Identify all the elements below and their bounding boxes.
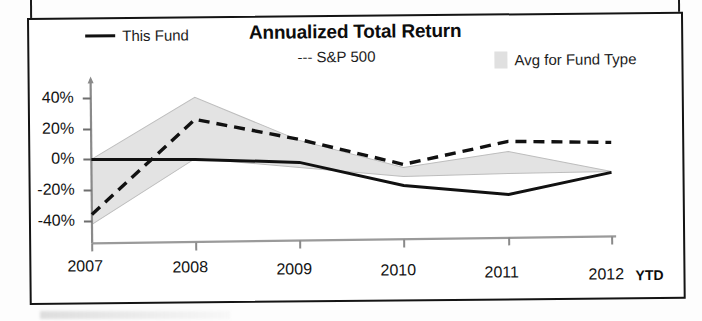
y-tick-label-0: 0% [16,150,74,169]
plot-area [29,14,684,303]
scanned-page: Annualized Total Return This Fund --- S&… [0,0,702,321]
x-tick-label-2012: 2012 [588,265,624,283]
x-axis-ytd-label: YTD [635,267,663,283]
x-tick-label-2010: 2010 [380,261,416,279]
y-tick-label-40: 40% [16,89,74,108]
x-axis-line [92,236,616,243]
y-axis-line [91,79,93,243]
x-tick-label-2007: 2007 [67,257,103,275]
chart-panel: Annualized Total Return This Fund --- S&… [27,12,686,305]
x-tick-label-2011: 2011 [484,263,519,281]
y-tick-label-20: 20% [16,120,74,139]
chart-svg [29,14,684,303]
x-tick-label-2009: 2009 [276,260,312,278]
x-tick-label-2008: 2008 [172,258,208,276]
chart-inner: Annualized Total Return This Fund --- S&… [29,14,684,303]
y-tick-label-neg20: -20% [17,181,75,200]
y-tick-label-neg40: -40% [17,212,75,231]
y-axis-arrow-icon [88,76,94,83]
scan-artifact-smudge [40,311,230,319]
